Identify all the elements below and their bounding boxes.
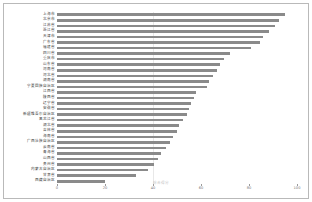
- bar: [57, 52, 230, 55]
- category-label: 西藏自治区: [35, 179, 55, 183]
- category-label: 江苏省: [43, 24, 55, 28]
- category-label: 湖南省: [43, 80, 55, 84]
- bar: [57, 75, 213, 78]
- category-label: 内蒙古自治区: [31, 168, 55, 172]
- bar: [57, 124, 179, 127]
- category-label: 广东省: [43, 41, 55, 45]
- bar: [57, 141, 170, 144]
- x-axis: 020406080100: [57, 184, 297, 185]
- bar: [57, 163, 154, 166]
- bar: [57, 119, 183, 122]
- bar: [57, 108, 189, 111]
- category-label: 吉林省: [43, 129, 55, 133]
- category-label: 江西省: [43, 91, 55, 95]
- bar: [57, 86, 207, 89]
- bar: [57, 69, 217, 72]
- plot-area: 上海市北京市江苏省浙江省天津市广东省福建省四川省重庆市山东省河南省河北省湖南省宁…: [57, 12, 297, 184]
- category-label: 浙江省: [43, 30, 55, 34]
- category-label: 云南省: [43, 146, 55, 150]
- category-label: 上海市: [43, 13, 55, 17]
- bar: [57, 158, 158, 161]
- category-label: 四川省: [43, 52, 55, 56]
- category-label: 青海省: [43, 152, 55, 156]
- category-label: 宁夏回族自治区: [27, 85, 55, 89]
- category-label: 河南省: [43, 68, 55, 72]
- bar: [57, 147, 166, 150]
- category-label: 新疆维吾尔自治区: [23, 113, 55, 117]
- bar: [57, 30, 269, 33]
- category-label: 山东省: [43, 63, 55, 67]
- x-axis-title: 综合得分: [153, 182, 169, 186]
- x-tick-label: 20: [103, 187, 108, 191]
- category-label: 安徽省: [43, 107, 55, 111]
- category-label: 山西省: [43, 157, 55, 161]
- x-tick-label: 40: [151, 187, 156, 191]
- bar-rows: 上海市北京市江苏省浙江省天津市广东省福建省四川省重庆市山东省河南省河北省湖南省宁…: [57, 12, 297, 184]
- x-tick-label: 0: [56, 187, 58, 191]
- category-label: 海南省: [43, 135, 55, 139]
- bar: [57, 169, 148, 172]
- bar: [57, 80, 209, 83]
- bar: [57, 136, 173, 139]
- bar: [57, 58, 224, 61]
- category-label: 福建省: [43, 46, 55, 50]
- category-label: 辽宁省: [43, 102, 55, 106]
- category-label: 贵州省: [43, 163, 55, 167]
- category-label: 北京市: [43, 19, 55, 23]
- bar: [57, 36, 263, 39]
- bar: [57, 13, 285, 16]
- category-label: 重庆市: [43, 57, 55, 61]
- category-label: 河北省: [43, 74, 55, 78]
- chart-screenshot: 上海市北京市江苏省浙江省天津市广东省福建省四川省重庆市山东省河南省河北省湖南省宁…: [0, 0, 312, 202]
- x-tick-label: 80: [247, 187, 252, 191]
- bar: [57, 19, 279, 22]
- bar: [57, 97, 194, 100]
- bar: [57, 102, 191, 105]
- bar: [57, 41, 260, 44]
- category-label: 陕西省: [43, 96, 55, 100]
- bar: [57, 174, 136, 177]
- bar: [57, 113, 187, 116]
- category-label: 黑龙江省: [39, 118, 55, 122]
- bar: [57, 180, 105, 183]
- bar: [57, 63, 220, 66]
- x-tick-label: 100: [294, 187, 301, 191]
- category-label: 湖北省: [43, 124, 55, 128]
- category-label: 天津市: [43, 35, 55, 39]
- bar: [57, 130, 177, 133]
- bar: [57, 47, 251, 50]
- bar: [57, 91, 196, 94]
- category-label: 甘肃省: [43, 174, 55, 178]
- bar: [57, 25, 275, 28]
- bar: [57, 152, 161, 155]
- x-tick-label: 60: [199, 187, 204, 191]
- category-label: 广西壮族自治区: [27, 141, 55, 145]
